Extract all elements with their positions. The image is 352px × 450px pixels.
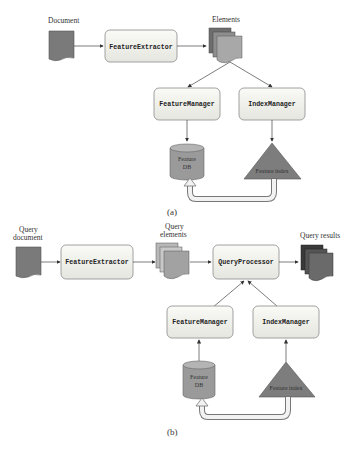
feature-index-icon: Feature index: [244, 143, 301, 179]
query-elements-stack-icon: [156, 243, 189, 279]
index-manager-label: IndexManager: [248, 101, 296, 108]
feature-db-icon-b: Feature DB: [183, 361, 215, 399]
svg-text:Feature: Feature: [190, 374, 208, 380]
query-document-label-2: document: [13, 233, 43, 242]
query-processor-box: QueryProcessor: [213, 245, 279, 279]
query-processor-label: QueryProcessor: [218, 259, 273, 266]
svg-text:Feature index: Feature index: [270, 385, 303, 391]
feedback-arrow-a: [184, 178, 274, 199]
feature-db-icon: Feature DB: [170, 144, 204, 180]
caption-b: (b): [167, 427, 178, 437]
index-manager-label-b: IndexManager: [262, 319, 310, 326]
panel-a: Document FeatureExtractor Elements Featu…: [48, 15, 305, 217]
feature-extractor-box-b: FeatureExtractor: [61, 245, 133, 279]
svg-text:Feature: Feature: [178, 156, 196, 162]
feature-extractor-label-b: FeatureExtractor: [65, 259, 128, 266]
elements-label: Elements: [212, 15, 240, 24]
document-label: Document: [48, 16, 80, 25]
architecture-diagram: Document FeatureExtractor Elements Featu…: [0, 0, 352, 450]
caption-a: (a): [167, 207, 177, 217]
panel-b: Query document FeatureExtractor Query el…: [13, 222, 340, 437]
index-manager-box-a: IndexManager: [239, 88, 305, 120]
svg-text:Feature index: Feature index: [256, 168, 289, 174]
feature-manager-label-b: FeatureManager: [172, 319, 227, 326]
feature-index-icon-b: Feature index: [259, 362, 315, 397]
feature-extractor-label: FeatureExtractor: [109, 44, 172, 51]
elements-stack-icon: [209, 28, 242, 63]
query-results-label: Query results: [300, 231, 340, 240]
svg-text:DB: DB: [195, 382, 203, 388]
feature-manager-label: FeatureManager: [159, 101, 214, 108]
query-elements-label-2: elements: [160, 230, 187, 239]
query-document-icon: [16, 247, 41, 278]
feature-manager-box-a: FeatureManager: [154, 88, 220, 120]
feature-extractor-box-a: FeatureExtractor: [105, 30, 177, 62]
feedback-arrow-b: [196, 397, 288, 417]
document-icon: [49, 31, 74, 61]
svg-text:DB: DB: [183, 164, 191, 170]
index-manager-box-b: IndexManager: [253, 306, 319, 338]
query-results-stack-icon: [301, 245, 333, 281]
feature-manager-box-b: FeatureManager: [167, 306, 233, 338]
